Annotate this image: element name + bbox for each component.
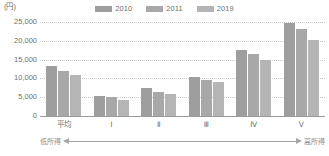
bar-2011-Ⅰ[interactable] [106, 97, 117, 116]
legend-swatch-2019 [197, 6, 214, 12]
bar-2019-Ⅰ[interactable] [118, 100, 129, 116]
bar-2019-平均[interactable] [70, 75, 81, 116]
arrow-head-right-icon [296, 138, 302, 144]
double-headed-arrow-icon [63, 138, 302, 145]
legend-label: 2011 [166, 5, 183, 13]
income-low-label: 低所得 [40, 137, 61, 146]
legend-item-2011[interactable]: 2011 [146, 5, 183, 13]
legend-swatch-2010 [95, 6, 112, 12]
bar-group-Ⅱ [135, 22, 183, 116]
arrow-line [68, 141, 297, 142]
y-axis-tick-label: 20,000 [14, 37, 37, 45]
y-axis-tick-label: 15,000 [14, 56, 37, 64]
bar-group-Ⅲ [183, 22, 231, 116]
bar-2011-Ⅴ[interactable] [296, 29, 307, 116]
bar-group-平均 [40, 22, 88, 116]
x-axis-tick-label: 平均 [40, 119, 88, 132]
y-axis-tick-label: 25,000 [14, 18, 37, 26]
legend-item-2010[interactable]: 2010 [95, 5, 132, 13]
bar-2019-Ⅲ[interactable] [213, 82, 224, 116]
bar-2010-Ⅰ[interactable] [94, 96, 105, 116]
bar-chart: (円) 201020112019 25,00020,00015,00010,00… [0, 0, 329, 156]
bar-2010-Ⅱ[interactable] [141, 88, 152, 116]
legend-swatch-2011 [146, 6, 163, 12]
bar-2010-平均[interactable] [46, 66, 57, 116]
x-axis-tick-label: Ⅰ [88, 119, 136, 132]
bar-series-container [40, 22, 325, 116]
bar-2011-Ⅲ[interactable] [201, 80, 212, 116]
y-axis-tick-label: 5,000 [18, 93, 37, 101]
bar-2011-平均[interactable] [58, 71, 69, 116]
gridline-0 [40, 116, 325, 117]
x-axis-tick-label: Ⅱ [135, 119, 183, 132]
income-high-label: 高所得 [304, 137, 325, 146]
legend-item-2019[interactable]: 2019 [197, 5, 234, 13]
y-axis-tick-label: 10,000 [14, 74, 37, 82]
x-axis-tick-label: Ⅲ [183, 119, 231, 132]
legend-label: 2010 [115, 5, 132, 13]
bar-2019-Ⅴ[interactable] [308, 40, 319, 116]
bar-2019-Ⅳ[interactable] [260, 60, 271, 116]
x-axis-tick-label: Ⅴ [278, 119, 326, 132]
bar-2011-Ⅳ[interactable] [248, 54, 259, 116]
y-axis-tick-labels: 25,00020,00015,00010,0005,0000 [0, 22, 37, 116]
bar-2010-Ⅴ[interactable] [284, 23, 295, 116]
legend-label: 2019 [217, 5, 234, 13]
bar-2019-Ⅱ[interactable] [165, 94, 176, 116]
x-axis-tick-labels: 平均ⅠⅡⅢⅣⅤ [40, 119, 325, 132]
plot-area [40, 22, 325, 116]
bar-group-Ⅴ [278, 22, 326, 116]
x-axis-tick-label: Ⅳ [230, 119, 278, 132]
income-gradient-annotation: 低所得 高所得 [40, 134, 325, 148]
bar-group-Ⅳ [230, 22, 278, 116]
y-axis-tick-label: 0 [33, 112, 37, 120]
bar-2010-Ⅲ[interactable] [189, 77, 200, 116]
chart-legend: 201020112019 [0, 2, 329, 15]
bar-group-Ⅰ [88, 22, 136, 116]
bar-2011-Ⅱ[interactable] [153, 92, 164, 116]
bar-2010-Ⅳ[interactable] [236, 50, 247, 116]
